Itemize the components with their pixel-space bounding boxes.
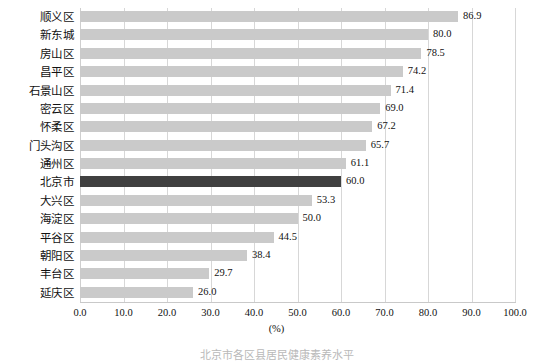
bar-row: 86.9 <box>80 8 515 26</box>
x-axis-tick-labels: 0.010.020.030.040.050.060.070.080.090.01… <box>0 305 553 321</box>
bar-石景山区[interactable] <box>80 85 391 96</box>
bar-门头沟区[interactable] <box>80 140 366 151</box>
category-label-房山区: 房山区 <box>0 45 74 63</box>
bar-row: 67.2 <box>80 118 515 136</box>
value-label-大兴区: 53.3 <box>317 191 335 208</box>
value-label-门头沟区: 65.7 <box>371 136 389 153</box>
figure-caption: 北京市各区县居民健康素养水平 <box>0 348 553 362</box>
x-tick-10.0: 10.0 <box>114 305 132 321</box>
x-axis-unit-label: (%) <box>0 322 553 336</box>
category-label-丰台区: 丰台区 <box>0 265 74 283</box>
x-tick-20.0: 20.0 <box>158 305 176 321</box>
bar-row: 65.7 <box>80 137 515 155</box>
x-axis-line <box>80 302 516 303</box>
x-tick-80.0: 80.0 <box>419 305 437 321</box>
x-tick-70.0: 70.0 <box>375 305 393 321</box>
bar-怀柔区[interactable] <box>80 121 372 132</box>
bar-row: 29.7 <box>80 265 515 283</box>
bar-row: 78.5 <box>80 45 515 63</box>
x-tick-40.0: 40.0 <box>245 305 263 321</box>
category-label-顺义区: 顺义区 <box>0 8 74 26</box>
bar-丰台区[interactable] <box>80 268 209 279</box>
x-tick-30.0: 30.0 <box>201 305 219 321</box>
value-label-延庆区: 26.0 <box>198 283 216 300</box>
category-label-怀柔区: 怀柔区 <box>0 118 74 136</box>
bar-row: 26.0 <box>80 284 515 302</box>
bar-房山区[interactable] <box>80 48 421 59</box>
category-axis-labels: 顺义区新东城房山区昌平区石景山区密云区怀柔区门头沟区通州区北京市大兴区海淀区平谷… <box>0 8 74 302</box>
category-label-海淀区: 海淀区 <box>0 210 74 228</box>
gridline-100.0 <box>515 8 516 302</box>
bar-rows: 86.980.078.574.271.469.067.265.761.160.0… <box>80 8 515 302</box>
category-label-北京市: 北京市 <box>0 173 74 191</box>
bar-row: 38.4 <box>80 247 515 265</box>
category-label-延庆区: 延庆区 <box>0 284 74 302</box>
bar-row: 61.1 <box>80 155 515 173</box>
value-label-石景山区: 71.4 <box>396 81 414 98</box>
bar-row: 53.3 <box>80 192 515 210</box>
x-tick-0.0: 0.0 <box>73 305 86 321</box>
value-label-海淀区: 50.0 <box>303 209 321 226</box>
bar-row: 50.0 <box>80 210 515 228</box>
bar-平谷区[interactable] <box>80 232 274 243</box>
x-tick-60.0: 60.0 <box>332 305 350 321</box>
value-label-新东城: 80.0 <box>433 25 451 42</box>
bar-海淀区[interactable] <box>80 213 298 224</box>
plot-area: 86.980.078.574.271.469.067.265.761.160.0… <box>80 8 515 302</box>
category-label-石景山区: 石景山区 <box>0 82 74 100</box>
bar-通州区[interactable] <box>80 158 346 169</box>
value-label-房山区: 78.5 <box>426 44 444 61</box>
value-label-怀柔区: 67.2 <box>377 117 395 134</box>
category-label-平谷区: 平谷区 <box>0 229 74 247</box>
value-label-平谷区: 44.5 <box>279 228 297 245</box>
category-label-密云区: 密云区 <box>0 100 74 118</box>
x-tick-90.0: 90.0 <box>462 305 480 321</box>
value-label-朝阳区: 38.4 <box>252 246 270 263</box>
category-label-通州区: 通州区 <box>0 155 74 173</box>
value-label-通州区: 61.1 <box>351 154 369 171</box>
bar-大兴区[interactable] <box>80 195 312 206</box>
category-label-新东城: 新东城 <box>0 26 74 44</box>
category-label-门头沟区: 门头沟区 <box>0 137 74 155</box>
value-label-丰台区: 29.7 <box>214 264 232 281</box>
value-label-北京市: 60.0 <box>346 172 364 189</box>
value-label-密云区: 69.0 <box>385 99 403 116</box>
category-label-大兴区: 大兴区 <box>0 192 74 210</box>
bar-新东城[interactable] <box>80 29 428 40</box>
category-label-昌平区: 昌平区 <box>0 63 74 81</box>
bar-row: 71.4 <box>80 82 515 100</box>
x-tick-100.0: 100.0 <box>503 305 527 321</box>
category-label-朝阳区: 朝阳区 <box>0 247 74 265</box>
bar-row: 80.0 <box>80 26 515 44</box>
bar-延庆区[interactable] <box>80 287 193 298</box>
bar-row: 44.5 <box>80 229 515 247</box>
bar-昌平区[interactable] <box>80 66 403 77</box>
x-tick-50.0: 50.0 <box>288 305 306 321</box>
bar-密云区[interactable] <box>80 103 380 114</box>
bar-row: 60.0 <box>80 173 515 191</box>
bar-北京市[interactable] <box>80 176 341 187</box>
bar-row: 69.0 <box>80 100 515 118</box>
bar-顺义区[interactable] <box>80 11 458 22</box>
bar-朝阳区[interactable] <box>80 250 247 261</box>
bar-row: 74.2 <box>80 63 515 81</box>
value-label-昌平区: 74.2 <box>408 62 426 79</box>
value-label-顺义区: 86.9 <box>463 7 481 24</box>
